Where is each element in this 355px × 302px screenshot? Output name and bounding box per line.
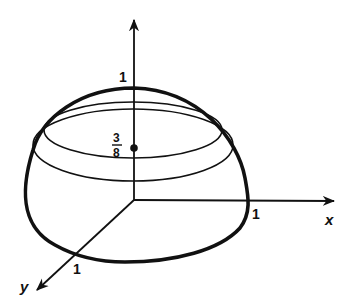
- y-axis-label: y: [19, 278, 29, 295]
- centroid-denominator: 8: [113, 146, 120, 160]
- x-tick-label: 1: [252, 206, 260, 222]
- x-axis: [134, 200, 334, 201]
- z-tick-label: 1: [119, 69, 127, 85]
- centroid-numerator: 3: [113, 131, 120, 145]
- hemisphere-outline: [25, 88, 248, 262]
- x-axis-label: x: [324, 211, 334, 228]
- centroid-dot: [130, 144, 138, 152]
- y-tick-label: 1: [73, 261, 81, 277]
- hemisphere-diagram: 1 1 x 1 y 3 8: [0, 0, 355, 302]
